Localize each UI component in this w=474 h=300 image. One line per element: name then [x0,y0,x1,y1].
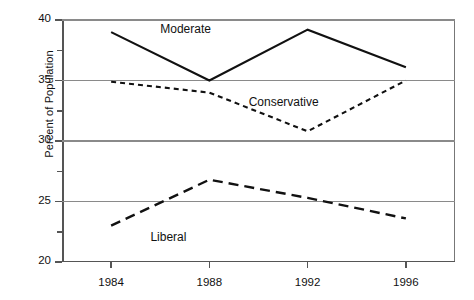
x-tick-1988 [209,261,211,268]
plot-area: ModerateConservativeLiberal [62,20,455,262]
y-axis-label-20: 20 [38,254,51,266]
y-axis-title: Percent of Population [43,9,55,199]
line-chart: Percent of Population ModerateConservati… [0,0,474,300]
series-label-liberal: Liberal [150,230,186,244]
y-axis-label-25: 25 [38,194,51,206]
y-axis-label-40: 40 [38,12,51,24]
y-tick-20 [55,261,62,263]
y-tick-35 [55,80,62,82]
x-axis-label-1996: 1996 [393,276,419,288]
x-axis-label-1988: 1988 [197,276,223,288]
series-label-conservative: Conservative [249,95,319,109]
y-tick-40 [55,19,62,21]
x-tick-1984 [110,261,112,268]
x-axis-label-1984: 1984 [98,276,124,288]
series-layer [62,20,455,262]
y-tick-30 [55,140,62,142]
x-tick-1992 [307,261,309,268]
y-tick-25 [55,201,62,203]
x-axis-label-1992: 1992 [295,276,321,288]
series-line-moderate [111,30,406,81]
y-axis-label-35: 35 [38,73,51,85]
series-line-liberal [111,180,406,226]
y-axis-label-30: 30 [38,133,51,145]
x-tick-1996 [405,261,407,268]
series-label-moderate: Moderate [160,22,211,36]
